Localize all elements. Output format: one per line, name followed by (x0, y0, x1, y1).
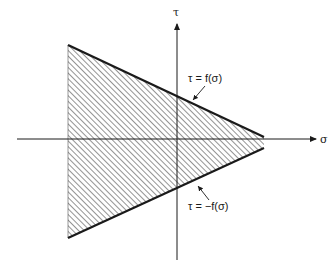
lower-curve-label: τ = −f(σ) (188, 200, 228, 212)
failure-region-diagram: τ σ τ = f(σ) τ = −f(σ) (0, 0, 334, 274)
upper-leader-arrow (193, 86, 205, 100)
hatched-region (68, 45, 264, 238)
lower-leader-arrow (198, 186, 209, 200)
tau-axis-label: τ (173, 6, 179, 19)
upper-curve-label: τ = f(σ) (188, 72, 222, 84)
sigma-axis-label: σ (320, 133, 328, 146)
